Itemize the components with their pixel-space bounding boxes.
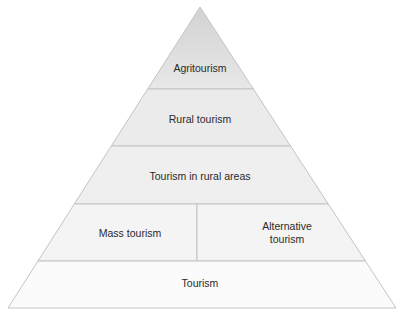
pyramid-diagram — [0, 0, 408, 323]
label-tourism-in-rural-areas: Tourism in rural areas — [110, 170, 290, 183]
label-mass-tourism: Mass tourism — [80, 227, 180, 240]
label-alternative-line2: tourism — [237, 233, 337, 246]
label-alternative-line1: Alternative — [237, 220, 337, 233]
label-alternative-tourism: Alternative tourism — [237, 220, 337, 246]
layer-agritourism — [148, 7, 254, 89]
label-tourism: Tourism — [150, 277, 250, 290]
label-agritourism: Agritourism — [150, 62, 250, 75]
label-rural-tourism: Rural tourism — [130, 113, 270, 126]
